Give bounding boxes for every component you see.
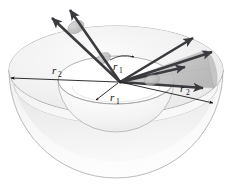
label-r1-upper-subscript: 1 — [119, 66, 123, 75]
figure-root: r 2 r 1 r 1 r 2 — [0, 0, 233, 195]
label-r1-lower-subscript: 1 — [116, 97, 120, 106]
dimension-inner-radius-lower — [96, 83, 118, 100]
label-r2-left-symbol: r — [52, 64, 57, 76]
label-r1-upper-symbol: r — [113, 60, 118, 72]
label-r2-right-subscript: 2 — [186, 88, 190, 97]
label-r2-right-symbol: r — [180, 82, 185, 94]
inner-radius-lower-line — [96, 83, 118, 100]
origin-point — [119, 81, 122, 84]
label-r1-lower-symbol: r — [110, 91, 115, 103]
hemispherical-shell-diagram: r 2 r 1 r 1 r 2 — [0, 0, 233, 195]
label-r2-left-subscript: 2 — [58, 70, 62, 79]
